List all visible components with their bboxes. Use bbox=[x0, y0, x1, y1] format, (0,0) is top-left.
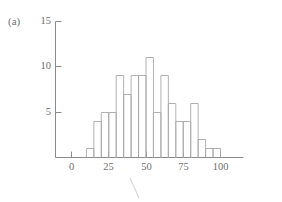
histogram-bar bbox=[139, 76, 146, 158]
histogram-bar bbox=[116, 76, 123, 158]
histogram-bar bbox=[168, 104, 175, 158]
x-tick-label: 100 bbox=[209, 161, 233, 172]
histogram-bar bbox=[161, 76, 168, 158]
histogram-bar bbox=[124, 95, 131, 158]
x-tick-label: 75 bbox=[172, 161, 196, 172]
y-tick-marks bbox=[56, 22, 62, 113]
histogram-bar bbox=[183, 122, 190, 158]
histogram-bar bbox=[86, 149, 93, 158]
histogram-bar bbox=[131, 76, 138, 158]
axes-group bbox=[56, 22, 244, 158]
histogram-bar bbox=[146, 58, 153, 158]
histogram-bar bbox=[176, 122, 183, 158]
x-tick-label: 50 bbox=[135, 161, 159, 172]
histogram-bar bbox=[198, 140, 205, 158]
histogram-bar bbox=[109, 113, 116, 158]
y-tick-label: 15 bbox=[29, 15, 51, 26]
histogram-bar bbox=[94, 122, 101, 158]
histogram-bar bbox=[191, 104, 198, 158]
x-tick-label: 25 bbox=[97, 161, 121, 172]
histogram-bar bbox=[213, 149, 220, 158]
histogram-bar bbox=[153, 113, 160, 158]
page-smudge-mark bbox=[130, 178, 139, 198]
x-tick-label: 0 bbox=[60, 161, 84, 172]
histogram-bar bbox=[206, 149, 213, 158]
y-tick-label: 5 bbox=[29, 106, 51, 117]
histogram-bars bbox=[86, 58, 220, 158]
histogram-bar bbox=[101, 113, 108, 158]
y-tick-label: 10 bbox=[29, 60, 51, 71]
histogram-figure: (a) 51015 0255075100 bbox=[0, 0, 282, 202]
